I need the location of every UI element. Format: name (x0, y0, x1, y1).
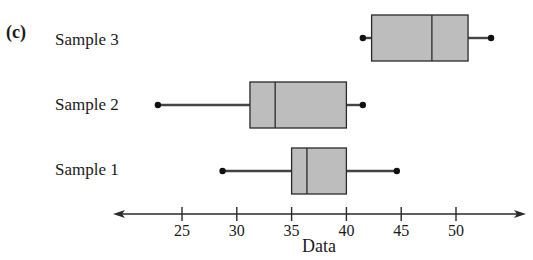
min-point-icon (360, 35, 366, 41)
min-point-icon (155, 102, 161, 108)
tick-label: 25 (174, 222, 190, 239)
min-point-icon (219, 168, 225, 174)
x-axis: 253035404550 Data (113, 207, 526, 256)
iqr-box (372, 15, 468, 61)
iqr-box (292, 148, 347, 194)
max-point-icon (394, 168, 400, 174)
box-plot-sample-2 (155, 82, 366, 128)
axis-ticks: 253035404550 (174, 207, 464, 239)
tick-label: 35 (284, 222, 300, 239)
max-point-icon (488, 35, 494, 41)
box-plot-sample-1 (219, 148, 400, 194)
tick-label: 50 (448, 222, 464, 239)
box-plot-sample-3 (360, 15, 495, 61)
box-plots (155, 15, 495, 194)
box-plot-chart: 253035404550 Data (0, 0, 533, 260)
x-axis-title: Data (302, 236, 336, 256)
tick-label: 30 (229, 222, 245, 239)
iqr-box (250, 82, 346, 128)
max-point-icon (360, 102, 366, 108)
tick-label: 45 (393, 222, 409, 239)
tick-label: 40 (338, 222, 354, 239)
